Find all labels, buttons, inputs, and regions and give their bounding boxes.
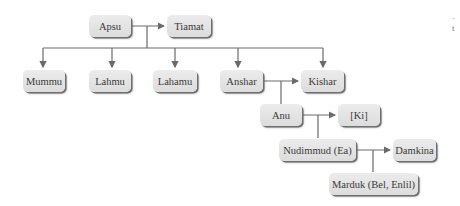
cropped-text-fragment: · t <box>452 13 455 33</box>
node-kishar: Kishar <box>301 70 344 92</box>
node-anshar: Anshar <box>220 70 263 92</box>
node-lahamu: Lahamu <box>153 70 197 92</box>
node-anu: Anu <box>260 104 302 126</box>
node-marduk: Marduk (Bel, Enlil) <box>329 173 418 195</box>
node-lahmu: Lahmu <box>89 70 131 92</box>
node-mummu: Mummu <box>23 70 65 92</box>
node-nudimmud: Nudimmud (Ea) <box>279 139 356 161</box>
node-ki: [Ki] <box>338 104 380 126</box>
node-tiamat: Tiamat <box>167 15 211 37</box>
node-damkina: Damkina <box>393 139 436 161</box>
node-apsu: Apsu <box>89 15 131 37</box>
